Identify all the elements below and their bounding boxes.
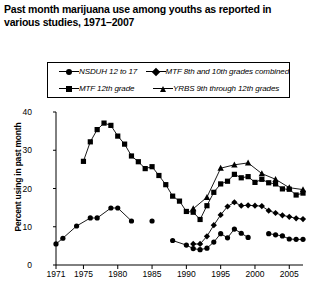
legend-label-mtf-8-10: MTF 8th and 10th grades combined: [166, 67, 289, 76]
legend-label-nsduh: NSDUH 12 to 17: [79, 67, 137, 76]
diamond-marker-icon: [146, 67, 166, 77]
circle-marker-icon: [59, 67, 79, 77]
chart-legend: NSDUH 12 to 17 MTF 8th and 10th grades c…: [47, 62, 290, 98]
x-tick-2005: 2005: [274, 270, 304, 279]
legend-item-mtf-8-10: MTF 8th and 10th grades combined: [146, 67, 289, 77]
chart-svg: [0, 100, 309, 275]
y-tick-10: 10: [14, 223, 32, 231]
x-tick-1975: 1975: [68, 270, 98, 279]
chart-title: Past month marijuana use among youths as…: [4, 3, 294, 29]
chart-plot-area: Percent using in past month 010203040 19…: [0, 100, 309, 300]
x-tick-1971: 1971: [41, 270, 71, 279]
x-tick-1990: 1990: [171, 270, 201, 279]
y-axis-tick-labels: 010203040: [14, 100, 32, 270]
y-tick-40: 40: [14, 108, 32, 116]
legend-item-nsduh: NSDUH 12 to 17: [59, 67, 144, 77]
legend-label-mtf-12: MTF 12th grade: [79, 84, 134, 93]
x-tick-2000: 2000: [240, 270, 270, 279]
y-tick-20: 20: [14, 185, 32, 193]
x-tick-1995: 1995: [206, 270, 236, 279]
legend-label-yrbs: YRBS 9th through 12th grades: [173, 84, 279, 93]
triangle-marker-icon: [153, 84, 173, 94]
x-axis-tick-labels: 19711975198019851990199520002005: [0, 266, 309, 286]
square-marker-icon: [59, 84, 79, 94]
legend-row-2: MTF 12th grade YRBS 9th through 12th gra…: [48, 80, 289, 97]
legend-row-1: NSDUH 12 to 17 MTF 8th and 10th grades c…: [48, 63, 289, 80]
legend-item-yrbs: YRBS 9th through 12th grades: [153, 84, 279, 94]
legend-item-mtf-12: MTF 12th grade: [59, 84, 151, 94]
x-tick-1980: 1980: [103, 270, 133, 279]
x-tick-1985: 1985: [137, 270, 167, 279]
y-tick-30: 30: [14, 146, 32, 154]
